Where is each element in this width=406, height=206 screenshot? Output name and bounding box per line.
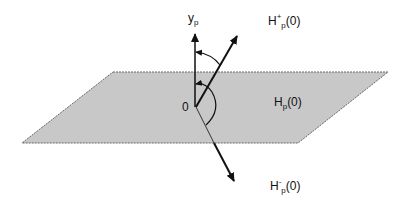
label-arg: (0) — [286, 179, 301, 193]
label-base: H — [268, 14, 277, 28]
plane-label: Hp(0) — [274, 96, 302, 111]
label-arg: (0) — [287, 95, 302, 109]
label-base: H — [270, 179, 279, 193]
lower-halfspace-label: H-p(0) — [270, 178, 300, 195]
y-axis-label: yp — [188, 12, 198, 27]
label-sup: + — [277, 12, 282, 21]
lower-normal-arrow — [214, 143, 234, 181]
label-arg: (0) — [286, 14, 301, 28]
origin-label: 0 — [182, 101, 189, 113]
label-base: H — [274, 95, 283, 109]
diagram-canvas — [0, 0, 406, 206]
upper-angle-arc — [196, 52, 220, 65]
tangent-plane — [22, 72, 388, 143]
upper-halfspace-label: H+p(0) — [268, 13, 300, 30]
label-sub: p — [194, 18, 198, 27]
label-sup: - — [279, 177, 282, 186]
